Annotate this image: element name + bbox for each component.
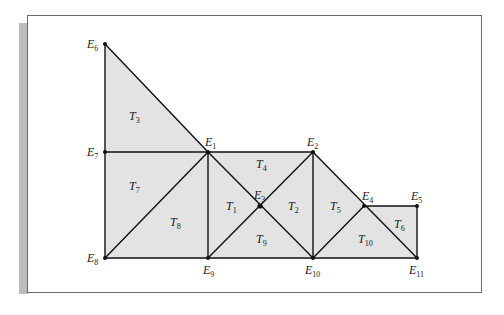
node-label-subscript: 10 <box>312 270 320 279</box>
triangle-label-subscript: 3 <box>136 116 140 125</box>
node-label-subscript: 11 <box>416 270 424 279</box>
triangle-label-t3: T3 <box>129 110 140 125</box>
triangle-label-subscript: 6 <box>401 224 405 233</box>
triangle-label-t10: T10 <box>358 233 373 248</box>
triangle-label-subscript: 1 <box>233 206 237 215</box>
node-label-subscript: 8 <box>94 258 98 267</box>
triangle-label-t5: T5 <box>330 200 341 215</box>
node-label-subscript: 1 <box>212 142 216 151</box>
node-label-e9: E9 <box>203 264 214 279</box>
triangle-label-letter: T <box>170 215 177 229</box>
node-label-subscript: 3 <box>261 195 265 204</box>
node-label-e11: E11 <box>409 264 424 279</box>
node-e11 <box>415 256 419 260</box>
node-e9 <box>206 256 210 260</box>
triangle-label-letter: T <box>330 199 337 213</box>
triangle-label-letter: T <box>358 232 365 246</box>
node-label-subscript: 2 <box>314 142 318 151</box>
triangle-label-letter: T <box>129 179 136 193</box>
triangle-label-t9: T9 <box>256 233 267 248</box>
triangle-label-letter: T <box>288 199 295 213</box>
triangle-label-letter: T <box>394 217 401 231</box>
triangle-label-t2: T2 <box>288 200 299 215</box>
node-label-e1: E1 <box>205 136 216 151</box>
triangle-label-subscript: 7 <box>136 186 140 195</box>
node-label-subscript: 9 <box>210 270 214 279</box>
node-label-e5: E5 <box>411 190 422 205</box>
triangle-label-subscript: 8 <box>177 222 181 231</box>
triangular-mesh <box>0 0 504 315</box>
node-label-e7: E7 <box>87 146 98 161</box>
node-label-e6: E6 <box>87 38 98 53</box>
node-label-e8: E8 <box>87 252 98 267</box>
triangle-label-t7: T7 <box>129 180 140 195</box>
triangle-fills <box>105 44 417 258</box>
node-e8 <box>103 256 107 260</box>
node-label-e10: E10 <box>305 264 320 279</box>
triangle-label-subscript: 10 <box>365 239 373 248</box>
node-label-e4: E4 <box>362 190 373 205</box>
triangle-label-t1: T1 <box>226 200 237 215</box>
node-e6 <box>103 42 107 46</box>
triangle-label-subscript: 9 <box>263 239 267 248</box>
node-label-subscript: 7 <box>94 152 98 161</box>
triangle-label-letter: T <box>256 232 263 246</box>
triangle-label-t6: T6 <box>394 218 405 233</box>
node-label-subscript: 6 <box>94 44 98 53</box>
triangle-label-t4: T4 <box>256 158 267 173</box>
triangle-label-letter: T <box>129 109 136 123</box>
node-e10 <box>311 256 315 260</box>
node-label-e2: E2 <box>307 136 318 151</box>
triangle-label-subscript: 2 <box>295 206 299 215</box>
triangle-label-letter: T <box>226 199 233 213</box>
node-label-subscript: 5 <box>418 196 422 205</box>
triangle-label-subscript: 4 <box>263 164 267 173</box>
node-e3 <box>257 203 262 208</box>
triangle-label-t8: T8 <box>170 216 181 231</box>
triangle-label-subscript: 5 <box>337 206 341 215</box>
node-e7 <box>103 150 107 154</box>
node-label-e3: E3 <box>254 189 265 204</box>
triangle-label-letter: T <box>256 157 263 171</box>
node-label-subscript: 4 <box>369 196 373 205</box>
